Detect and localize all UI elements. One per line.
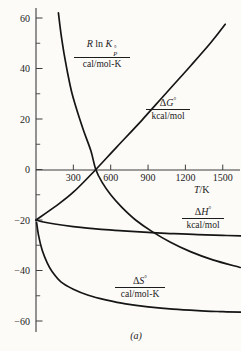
rlnkp-denominator: cal/mol-K [74, 57, 130, 69]
thermodynamics-figure: 6040200−20−40−60 30060090012001500 R ln … [0, 0, 241, 351]
delta-g-denominator: kcal/mol [146, 109, 190, 121]
kp-sup-sub: °P [113, 45, 117, 56]
delta-s-denominator: cal/mol-K [115, 287, 165, 299]
y-tick-label-40: 40 [4, 63, 30, 74]
curve-label-delta-s: ΔS° cal/mol-K [115, 273, 165, 299]
rlnkp-numerator: R ln K°P [84, 38, 121, 57]
y-tick-label-0: 0 [4, 164, 30, 175]
curve-label-rlnkp: R ln K°P cal/mol-K [74, 38, 130, 69]
delta-h-denominator: kcal/mol [182, 218, 224, 230]
y-tick-label--20: −20 [4, 215, 30, 226]
x-tick-label-600: 600 [95, 172, 127, 183]
curve-label-delta-g: ΔG° kcal/mol [146, 95, 190, 121]
delta-s-numerator: ΔS° [130, 273, 150, 287]
y-tick-label--40: −40 [4, 265, 30, 276]
y-tick-label--60: −60 [4, 316, 30, 327]
delta-g-numerator: ΔG° [157, 95, 179, 109]
x-axis-label: T/K [194, 184, 224, 195]
y-tick-label-20: 20 [4, 114, 30, 125]
x-tick-label-1500: 1500 [207, 172, 239, 183]
curve-label-delta-h: ΔH° kcal/mol [182, 204, 224, 230]
y-tick-label-60: 60 [4, 13, 30, 24]
x-tick-label-1200: 1200 [169, 172, 201, 183]
figure-caption: (a) [118, 330, 154, 341]
delta-h-numerator: ΔH° [192, 204, 214, 218]
x-tick-label-300: 300 [57, 172, 89, 183]
x-tick-label-900: 900 [132, 172, 164, 183]
